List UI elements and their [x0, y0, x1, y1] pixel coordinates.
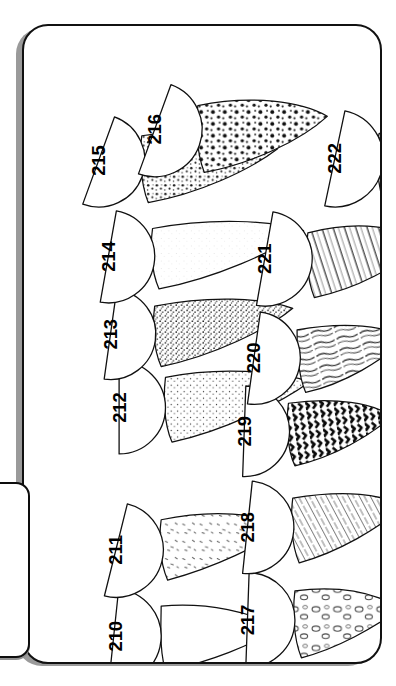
figure-221-stem: [307, 226, 382, 298]
figure-214: [100, 211, 303, 310]
figure-210: [109, 589, 280, 664]
figure-218-stem: [292, 494, 382, 563]
figure-213-cap: [104, 289, 161, 385]
figure-218-cap: [243, 481, 299, 578]
figure-number-210: 210: [105, 621, 126, 652]
figure-215: [83, 117, 278, 220]
figure-number-221: 221: [254, 243, 275, 274]
figure-214-stem: [151, 221, 303, 288]
figure-216-cap: [138, 85, 215, 190]
figure-number-216: 216: [144, 114, 165, 145]
plate-tab[interactable]: Planche 15A: [0, 482, 30, 658]
figure-220-cap: [247, 312, 306, 410]
figure-222-stem: [377, 124, 382, 214]
figure-212-cap: [119, 361, 165, 454]
figure-212-stem: [164, 371, 310, 442]
plate-frame: 210211212213214215216217218219220221222: [22, 24, 382, 664]
figure-222: [325, 111, 382, 216]
figure-number-222: 222: [324, 143, 345, 174]
figure-215-cap: [83, 117, 158, 220]
figure-217: [246, 573, 382, 664]
figure-215-stem: [141, 132, 278, 203]
figure-number-211: 211: [105, 535, 126, 565]
figure-number-214: 214: [98, 240, 119, 271]
figure-213: [104, 289, 293, 385]
plate-tab-label: Planche 15A: [0, 511, 3, 629]
figure-214-cap: [100, 211, 162, 310]
figure-219-cap: [243, 386, 291, 478]
figure-219-stem: [287, 401, 382, 466]
figure-number-220: 220: [243, 343, 264, 374]
figure-210-cap: [109, 589, 166, 664]
figure-218: [243, 481, 382, 578]
figure-211-stem: [160, 514, 286, 581]
figure-221-cap: [256, 212, 319, 314]
plate-root: 210211212213214215216217218219220221222 …: [0, 0, 396, 686]
figure-number-215: 215: [88, 145, 109, 176]
figure-number-219: 219: [234, 416, 255, 447]
figure-number-212: 212: [109, 392, 130, 423]
figure-number-217: 217: [237, 605, 258, 636]
figure-216: [138, 85, 327, 190]
figure-219: [243, 386, 382, 478]
figure-number-213: 213: [100, 319, 121, 350]
figure-216-stem: [197, 100, 328, 172]
figure-number-218: 218: [237, 512, 258, 543]
figure-illustrations: 210211212213214215216217218219220221222: [22, 24, 382, 664]
figure-217-cap: [246, 573, 297, 664]
figure-221: [256, 212, 382, 314]
figure-211: [104, 504, 286, 608]
figure-217-stem: [294, 589, 382, 658]
figure-212: [119, 361, 310, 454]
figure-220-stem: [297, 325, 382, 392]
figure-222-cap: [325, 111, 382, 216]
figure-211-cap: [104, 504, 173, 608]
figure-220: [247, 312, 382, 410]
figure-210-stem: [161, 605, 280, 664]
figure-213-stem: [153, 299, 292, 366]
